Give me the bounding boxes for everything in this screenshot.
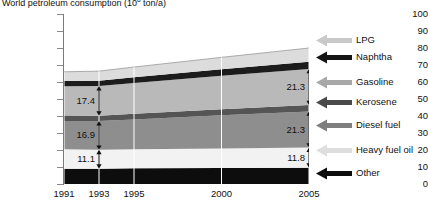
legend-arrow-icon [316,34,352,47]
y-axis-label-100: 100 [402,9,428,18]
legend-label: Naphtha [356,52,392,62]
annotation-label-diesel-2005: 21.3 [277,124,305,135]
y-axis-label-50: 50 [402,94,428,103]
stacked-area-plot [64,14,309,184]
y-axis-tick-0 [57,184,63,185]
y-axis-label-0: 0 [402,179,428,188]
y-axis-tick-70 [57,65,63,66]
y-axis-label-30: 30 [402,128,428,137]
legend-item-kerosene: Kerosene [316,95,397,109]
annotation-label-heavyoil-2005: 11.8 [277,152,305,163]
y-axis-label-70: 70 [402,60,428,69]
x-axis-label-1993: 1993 [79,188,119,199]
chart-title-main: World petroleum consumption (10 [2,0,137,8]
y-axis-tick-80 [57,48,63,49]
annotation-label-gasoline-1993: 17.4 [69,95,95,106]
legend-label: LPG [356,35,375,45]
legend-item-gasoline: Gasoline [316,75,394,89]
y-axis-tick-50 [57,99,63,100]
plot-area: 17.416.911.121.321.311.8 [64,14,309,184]
legend-item-other: Other [316,166,380,180]
legend-item-naphtha: Naphtha [316,50,392,64]
x-axis-label-1991: 1991 [44,188,84,199]
chart-title: World petroleum consumption (108 ton/a) [2,0,166,8]
y-axis-label-90: 90 [402,26,428,35]
annotation-label-gasoline-2005: 21.3 [277,81,305,92]
legend-arrow-icon [316,119,352,132]
x-axis-label-1995: 1995 [114,188,154,199]
annotation-label-diesel-1993: 16.9 [69,129,95,140]
legend-arrow-icon [316,96,352,109]
y-axis-tick-60 [57,82,63,83]
y-axis-label-60: 60 [402,77,428,86]
y-axis-label-10: 10 [402,162,428,171]
y-axis-tick-90 [57,31,63,32]
legend-arrow-icon [316,144,352,157]
legend-item-heavy-fuel-oil: Heavy fuel oil [316,143,413,157]
legend-arrow-icon [316,167,352,180]
chart-title-tail: ton/a) [141,0,167,8]
y-axis-tick-10 [57,167,63,168]
y-axis-label-80: 80 [402,43,428,52]
y-axis-tick-20 [57,150,63,151]
legend-label: Other [356,168,380,178]
legend-arrow-icon [316,51,352,64]
legend-label: Kerosene [356,97,397,107]
chart-container: World petroleum consumption (108 ton/a) … [0,0,428,209]
y-axis-tick-40 [57,116,63,117]
x-axis-label-2005: 2005 [289,188,329,199]
y-axis-label-40: 40 [402,111,428,120]
legend-label: Gasoline [356,77,394,87]
legend-item-diesel-fuel: Diesel fuel [316,118,400,132]
x-axis-label-2000: 2000 [202,188,242,199]
legend-item-lpg: LPG [316,33,375,47]
legend-label: Heavy fuel oil [356,145,413,155]
legend-label: Diesel fuel [356,120,400,130]
area-band-other [64,168,309,184]
y-axis-tick-30 [57,133,63,134]
legend-arrow-icon [316,76,352,89]
y-axis-tick-100 [57,14,63,15]
annotation-label-heavyoil-1993: 11.1 [69,153,95,164]
